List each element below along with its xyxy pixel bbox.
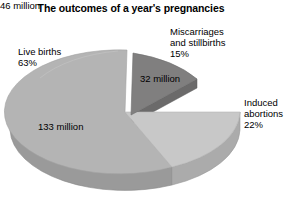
slice-value-live-births: 133 million [38, 121, 83, 132]
pie-chart-figure: The outcomes of a year's pregnancies Liv… [0, 0, 306, 216]
slice-value-induced-abortions: 46 million [0, 0, 40, 11]
slice-callout-live-births: Live births 63% [18, 46, 61, 68]
slice-callout-miscarriages: Miscarriages and stillbirths 15% [170, 26, 225, 59]
slice-value-miscarriages: 32 million [140, 73, 180, 84]
slice-callout-induced-abortions: Induced abortions 22% [244, 97, 283, 130]
